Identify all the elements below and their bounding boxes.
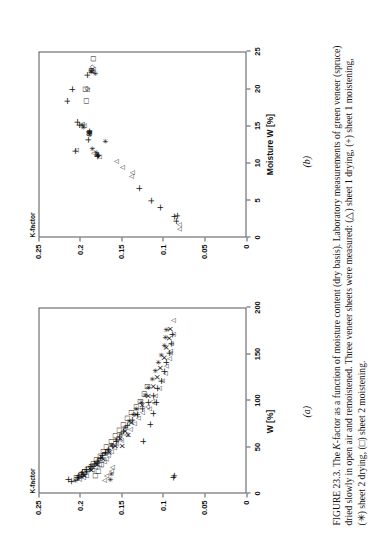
y-tick-label: 0.2: [75, 244, 84, 254]
y-tick: [246, 237, 247, 241]
data-point: ◇: [86, 129, 93, 134]
data-point: △: [119, 164, 125, 169]
data-point: +: [144, 420, 154, 428]
data-point: +: [154, 203, 164, 211]
x-axis-title-a: W [%]: [264, 409, 274, 433]
data-point: +: [137, 437, 147, 445]
data-point: △: [129, 170, 135, 175]
x-tick-label: 25: [252, 47, 261, 55]
plot-frame-b: △△△△△△△△△△△△△△△△△++++++++++++++++✳✳✳✳✳✳✳…: [38, 51, 246, 237]
caption-lead: The: [330, 449, 341, 466]
data-point: ×: [149, 383, 157, 390]
data-point: ×: [124, 431, 132, 438]
y-tick: [162, 493, 163, 497]
data-point: +: [168, 471, 178, 479]
data-point: △: [109, 465, 115, 470]
data-point: ×: [127, 419, 135, 426]
y-tick: [121, 237, 122, 241]
data-point: ✳: [108, 470, 115, 476]
data-point: +: [172, 211, 182, 219]
x-tick-label: 5: [252, 198, 261, 202]
plot-frame-a: △△△△△△△△△△△△△△△△△△△△△△△△△△△△△△△△△△△△△△++…: [38, 307, 246, 493]
caption-k-italic: K: [330, 443, 341, 449]
x-tick: [246, 400, 250, 401]
x-tick-label: 15: [252, 121, 261, 129]
x-tick: [246, 199, 250, 200]
x-tick-label: 50: [252, 442, 261, 450]
data-point: ×: [165, 334, 173, 341]
y-tick: [246, 493, 247, 497]
x-tick-label: 10: [252, 158, 261, 166]
x-tick: [246, 88, 250, 89]
data-point: ×: [153, 373, 161, 380]
data-point: ×: [132, 411, 140, 418]
sub-label-a: (a): [300, 405, 311, 417]
data-point: ×: [118, 442, 126, 449]
x-axis-title-b: Moisture W [%]: [264, 113, 274, 174]
data-point: ◇: [84, 85, 91, 90]
x-tick-label: 20: [252, 84, 261, 92]
x-tick-label: 100: [252, 394, 261, 407]
x-tick: [246, 307, 250, 308]
y-tick-label: 0.25: [34, 244, 43, 259]
data-point: ×: [138, 401, 146, 408]
data-point: △: [112, 158, 118, 163]
data-point: ×: [144, 392, 152, 399]
y-tick: [204, 237, 205, 241]
data-point: □: [90, 55, 96, 61]
x-tick-label: 150: [252, 347, 261, 360]
data-point: +: [69, 146, 79, 154]
y-axis-title-a: K-factor: [28, 468, 35, 493]
y-tick: [204, 493, 205, 497]
sub-label-b: (b): [300, 155, 311, 167]
data-point: +: [66, 85, 76, 93]
y-axis-title-b: K-factor: [28, 212, 35, 237]
y-tick-label: 0.05: [200, 244, 209, 259]
data-point: △: [170, 318, 176, 323]
y-tick-label: 0.1: [158, 244, 167, 254]
x-tick: [246, 353, 250, 354]
y-tick: [162, 237, 163, 241]
y-tick: [38, 493, 39, 497]
y-tick-label: 0.1: [158, 500, 167, 510]
data-point: ×: [105, 449, 113, 456]
y-tick: [79, 237, 80, 241]
figure-number: 23.3.: [330, 469, 341, 488]
data-point: ×: [166, 325, 174, 332]
x-tick: [246, 51, 250, 52]
data-point: □: [95, 468, 101, 474]
data-point: ◇: [89, 64, 96, 69]
y-tick-label: 0.15: [117, 500, 126, 515]
y-tick: [79, 493, 80, 497]
y-tick-label: 0: [242, 244, 251, 248]
x-tick-label: 0: [252, 491, 261, 495]
y-tick-label: 0: [242, 500, 251, 504]
y-tick-label: 0.05: [200, 500, 209, 515]
data-point: +: [62, 97, 72, 105]
data-point: ✳: [79, 121, 86, 127]
figure-caption: FIGURE 23.3. The K-factor as a function …: [330, 45, 367, 525]
plot-area-a: △△△△△△△△△△△△△△△△△△△△△△△△△△△△△△△△△△△△△△++…: [39, 308, 245, 492]
chart-panel-b: △△△△△△△△△△△△△△△△△++++++++++++++++✳✳✳✳✳✳✳…: [28, 45, 278, 277]
plot-area-b: △△△△△△△△△△△△△△△△△++++++++++++++++✳✳✳✳✳✳✳…: [39, 52, 245, 236]
x-tick: [246, 125, 250, 126]
x-tick-label: 0: [252, 235, 261, 239]
data-point: +: [147, 409, 157, 417]
y-tick: [38, 237, 39, 241]
data-point: ×: [99, 455, 107, 462]
x-tick: [246, 446, 250, 447]
data-point: +: [145, 196, 155, 204]
figure-page: △△△△△△△△△△△△△△△△△△△△△△△△△△△△△△△△△△△△△△++…: [0, 0, 385, 551]
data-point: ✳: [101, 138, 108, 144]
data-point: □: [83, 98, 89, 104]
data-point: +: [133, 184, 143, 192]
data-point: ×: [116, 435, 124, 442]
y-tick-label: 0.15: [117, 244, 126, 259]
x-tick: [246, 162, 250, 163]
y-tick: [121, 493, 122, 497]
x-tick-label: 200: [252, 301, 261, 314]
chart-panel-a: △△△△△△△△△△△△△△△△△△△△△△△△△△△△△△△△△△△△△△++…: [28, 303, 278, 525]
figure-label: FIGURE: [330, 490, 341, 525]
y-tick-label: 0.25: [34, 500, 43, 515]
data-point: ✳: [89, 145, 96, 151]
